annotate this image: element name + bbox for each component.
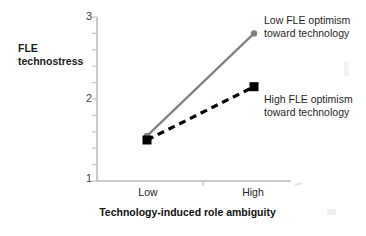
data-point-1-1 bbox=[250, 82, 259, 91]
scan-artifact bbox=[327, 209, 336, 215]
chart-figure: FLE technostress 3 2 1 Low High Technolo… bbox=[0, 0, 366, 236]
scan-artifact bbox=[344, 62, 349, 76]
data-point-1-0 bbox=[143, 136, 152, 145]
data-point-0-1 bbox=[251, 30, 257, 36]
data-series-layer bbox=[143, 30, 259, 144]
series-line-1 bbox=[147, 87, 254, 140]
plot-area bbox=[0, 0, 366, 236]
series-line-0 bbox=[147, 33, 254, 135]
